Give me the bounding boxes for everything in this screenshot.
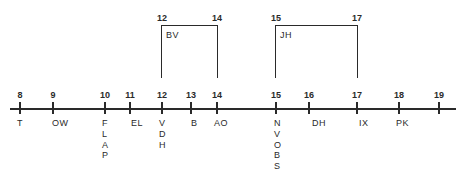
tick-label-nvobs: N V O B S bbox=[274, 118, 282, 172]
axis-tick-11 bbox=[129, 102, 130, 114]
tick-value-12: 12 bbox=[157, 90, 167, 100]
tick-value-9: 9 bbox=[50, 90, 55, 100]
bracket-label-jh: JH bbox=[280, 30, 292, 40]
tick-value-14: 14 bbox=[212, 90, 222, 100]
tick-value-13: 13 bbox=[186, 90, 196, 100]
bracket-end-value: 17 bbox=[352, 13, 362, 23]
tick-value-8: 8 bbox=[17, 90, 22, 100]
axis-tick-17 bbox=[356, 102, 357, 114]
axis-tick-10 bbox=[104, 102, 105, 114]
axis-tick-12 bbox=[161, 102, 162, 114]
tick-label-t: T bbox=[17, 118, 23, 129]
tick-value-15: 15 bbox=[271, 90, 281, 100]
tick-label-vdh: V D H bbox=[159, 118, 166, 150]
tick-label-b: B bbox=[191, 118, 198, 129]
tick-label-el: EL bbox=[131, 118, 143, 129]
tick-label-pk: PK bbox=[396, 118, 409, 129]
tick-value-17: 17 bbox=[352, 90, 362, 100]
axis-tick-19 bbox=[438, 102, 439, 114]
tick-value-10: 10 bbox=[100, 90, 110, 100]
tick-value-16: 16 bbox=[304, 90, 314, 100]
tick-value-11: 11 bbox=[125, 90, 135, 100]
tick-label-ix: IX bbox=[359, 118, 369, 129]
axis-tick-9 bbox=[52, 102, 53, 114]
tick-label-dh: DH bbox=[312, 118, 326, 129]
bracket-end-value: 14 bbox=[212, 13, 222, 23]
axis-tick-13 bbox=[190, 102, 191, 114]
tick-label-ao: AO bbox=[214, 118, 228, 129]
bracket-start-value: 12 bbox=[157, 13, 167, 23]
tick-label-flap: F L A P bbox=[102, 118, 109, 161]
timeline-axis bbox=[10, 108, 456, 110]
axis-tick-16 bbox=[308, 102, 309, 114]
tick-label-ow: OW bbox=[52, 118, 69, 129]
bracket-start-value: 15 bbox=[271, 13, 281, 23]
axis-tick-8 bbox=[19, 102, 20, 114]
axis-tick-15 bbox=[275, 102, 276, 114]
bracket-label-bv: BV bbox=[166, 30, 179, 40]
tick-value-19: 19 bbox=[434, 90, 444, 100]
axis-tick-14 bbox=[216, 102, 217, 114]
tick-value-18: 18 bbox=[394, 90, 404, 100]
axis-tick-18 bbox=[398, 102, 399, 114]
